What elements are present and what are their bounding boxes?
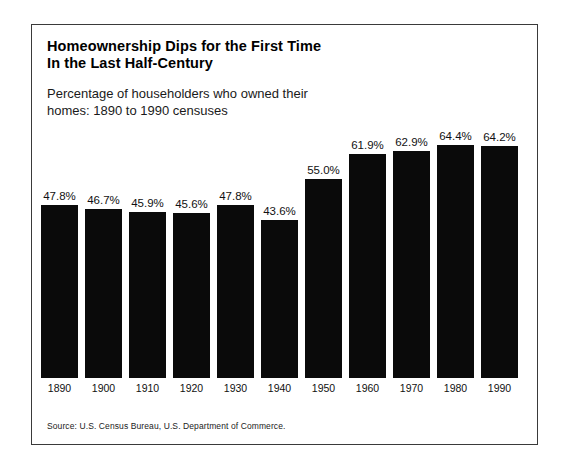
- x-axis-tick-label: 1960: [343, 382, 393, 394]
- x-axis-tick-label: 1920: [167, 382, 217, 394]
- chart-frame: Homeownership Dips for the First Time In…: [31, 24, 538, 445]
- x-axis-tick-label: 1910: [123, 382, 173, 394]
- x-axis-tick-label: 1980: [431, 382, 481, 394]
- x-axis-tick-label: 1970: [387, 382, 437, 394]
- bar: [261, 220, 298, 378]
- x-axis-tick-label: 1900: [79, 382, 129, 394]
- bar: [481, 146, 518, 378]
- bar-value-label: 64.2%: [470, 131, 530, 143]
- bar-chart-plot-area: 47.8%46.7%45.9%45.6%47.8%43.6%55.0%61.9%…: [41, 125, 533, 378]
- bar-column: 47.8%: [217, 125, 254, 378]
- bar-column: 62.9%: [393, 125, 430, 378]
- bar-column: 47.8%: [41, 125, 78, 378]
- chart-subtitle: Percentage of householders who owned the…: [47, 85, 308, 119]
- bar: [305, 179, 342, 378]
- bar-column: 46.7%: [85, 125, 122, 378]
- bar: [85, 209, 122, 378]
- x-axis-tick-label: 1990: [475, 382, 525, 394]
- bar: [437, 145, 474, 378]
- x-axis-tick-label: 1930: [211, 382, 261, 394]
- bar-column: 64.4%: [437, 125, 474, 378]
- chart-title: Homeownership Dips for the First Time In…: [47, 38, 321, 72]
- bar: [217, 205, 254, 378]
- bar-column: 55.0%: [305, 125, 342, 378]
- bar-column: 64.2%: [481, 125, 518, 378]
- bar: [349, 154, 386, 378]
- bar-column: 45.9%: [129, 125, 166, 378]
- bar: [173, 213, 210, 378]
- bar: [129, 212, 166, 378]
- bar-value-label: 47.8%: [206, 190, 266, 202]
- x-axis-tick-label: 1890: [35, 382, 85, 394]
- x-axis-tick-label: 1950: [299, 382, 349, 394]
- bar: [41, 205, 78, 378]
- bar-column: 45.6%: [173, 125, 210, 378]
- bar-column: 61.9%: [349, 125, 386, 378]
- bar-value-label: 43.6%: [250, 205, 310, 217]
- bar-value-label: 55.0%: [294, 164, 354, 176]
- x-axis-tick-label: 1940: [255, 382, 305, 394]
- bar: [393, 151, 430, 378]
- source-note: Source: U.S. Census Bureau, U.S. Departm…: [47, 421, 286, 431]
- bar-column: 43.6%: [261, 125, 298, 378]
- x-axis-labels: 1890190019101920193019401950196019701980…: [41, 382, 533, 402]
